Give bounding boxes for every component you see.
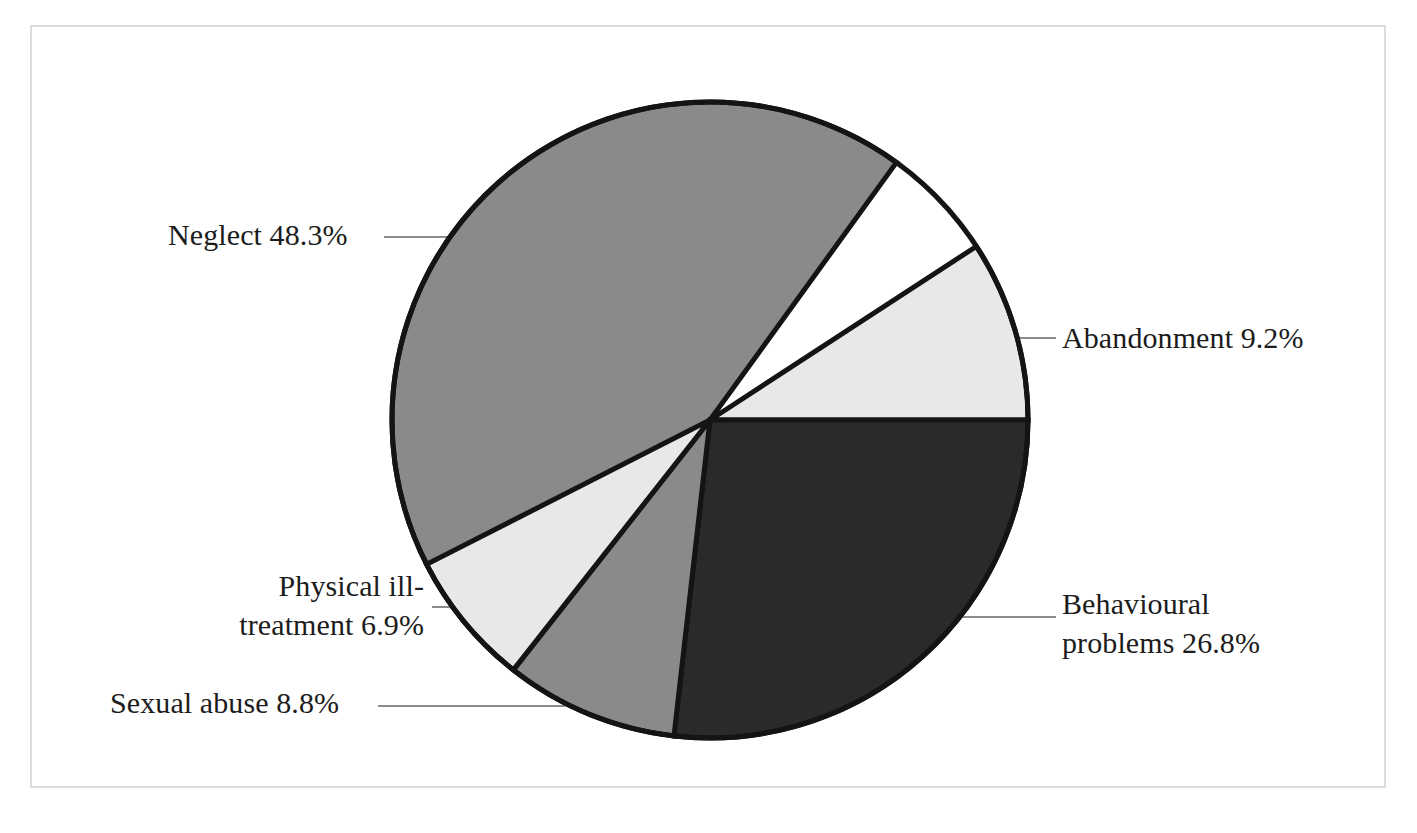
slice-label-abandonment: Abandonment 9.2% (1062, 318, 1304, 357)
slice-label-physical-ill-treatment: Physical ill- treatment 6.9% (152, 566, 424, 644)
pie-slice-behavioural-problems[interactable] (674, 420, 1028, 738)
slice-label-behavioural-problems: Behavioural problems 26.8% (1062, 584, 1260, 662)
slice-label-neglect: Neglect 48.3% (168, 215, 348, 254)
slice-label-sexual-abuse: Sexual abuse 8.8% (110, 683, 339, 722)
figure-canvas: Neglect 48.3% Abandonment 9.2% Behaviour… (0, 0, 1417, 833)
pie-slice-group (392, 102, 1028, 738)
